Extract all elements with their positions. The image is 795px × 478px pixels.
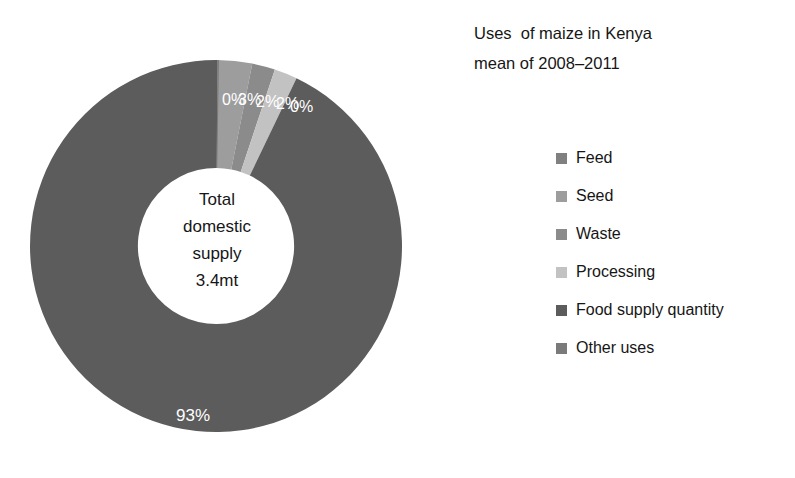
legend-swatch-icon — [556, 267, 567, 278]
legend-item[interactable]: Processing — [556, 253, 792, 291]
legend-swatch-icon — [556, 343, 567, 354]
legend-swatch-icon — [556, 305, 567, 316]
chart-title: Uses of maize in Kenya mean of 2008–2011 — [474, 18, 784, 78]
legend-item-label: Other uses — [576, 340, 654, 356]
chart-legend: FeedSeedWasteProcessingFood supply quant… — [556, 139, 792, 367]
chart-title-line-2: mean of 2008–2011 — [474, 48, 784, 78]
legend-swatch-icon — [556, 153, 567, 164]
slice-value-label: 93% — [176, 406, 210, 425]
legend-item[interactable]: Other uses — [556, 329, 792, 367]
chart-title-line-1: Uses of maize in Kenya — [474, 18, 784, 48]
donut-chart: 0%3%2%2%0%93% — [28, 58, 404, 434]
legend-item[interactable]: Waste — [556, 215, 792, 253]
donut-chart-figure: 0%3%2%2%0%93% Total domestic supply 3.4m… — [0, 0, 795, 478]
legend-item[interactable]: Feed — [556, 139, 792, 177]
legend-item-label: Waste — [576, 226, 621, 242]
legend-item-label: Processing — [576, 264, 655, 280]
legend-swatch-icon — [556, 229, 567, 240]
donut-slice[interactable] — [30, 60, 402, 432]
legend-item-label: Seed — [576, 188, 613, 204]
legend-swatch-icon — [556, 191, 567, 202]
slice-value-label: 0% — [290, 98, 313, 115]
donut-slices — [30, 60, 402, 432]
donut-svg: 0%3%2%2%0%93% — [28, 58, 404, 434]
legend-item-label: Feed — [576, 150, 612, 166]
legend-item-label: Food supply quantity — [576, 302, 724, 318]
legend-item[interactable]: Seed — [556, 177, 792, 215]
legend-item[interactable]: Food supply quantity — [556, 291, 792, 329]
